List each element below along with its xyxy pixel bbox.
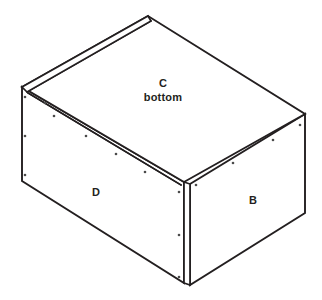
label-face-c-sublabel: bottom <box>144 90 182 104</box>
label-face-c: C bottom <box>144 76 182 104</box>
box-isometric-drawing <box>0 0 322 300</box>
label-face-d: D <box>92 185 100 199</box>
label-face-c-letter: C <box>159 77 167 89</box>
diagram-canvas: C bottom D B <box>0 0 322 300</box>
label-face-b: B <box>249 193 257 207</box>
front-corner-post <box>184 182 190 285</box>
